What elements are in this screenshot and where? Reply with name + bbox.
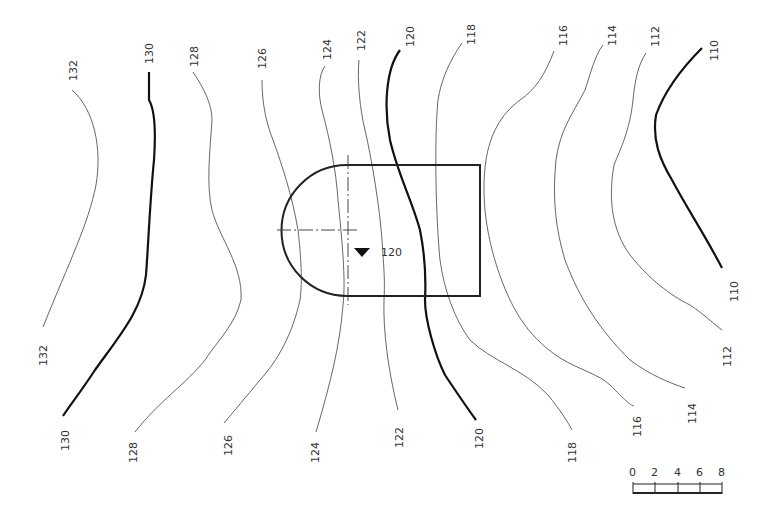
scale-label-2: 2	[651, 466, 658, 479]
label-112-top: 112	[649, 26, 662, 47]
scale-label-4: 4	[674, 466, 681, 479]
contour-site-plan: 120 132 130 128 126 124 122 120 118 116 …	[0, 0, 780, 532]
label-114-bottom: 114	[686, 403, 699, 424]
label-120-bottom: 120	[473, 428, 486, 449]
label-118-top: 118	[465, 24, 478, 45]
label-130-top: 130	[143, 43, 156, 64]
building-outline	[282, 165, 481, 296]
label-110-bottom: 110	[728, 281, 741, 302]
contour-110	[655, 48, 722, 268]
label-114-top: 114	[606, 25, 619, 46]
contour-124	[316, 66, 344, 432]
label-120-top: 120	[404, 26, 417, 47]
label-124-bottom: 124	[309, 442, 322, 463]
label-126-bottom: 126	[222, 435, 235, 456]
label-122-bottom: 122	[393, 427, 406, 448]
elevation-marker-icon	[354, 248, 370, 257]
contour-122	[358, 60, 398, 410]
floor-elevation-label: 120	[381, 246, 402, 259]
label-110-top: 110	[708, 40, 721, 61]
label-128-bottom: 128	[127, 442, 140, 463]
contour-lines	[43, 43, 722, 432]
scale-label-0: 0	[629, 466, 636, 479]
scale-label-6: 6	[696, 466, 703, 479]
contour-120	[387, 50, 476, 420]
contour-labels-bottom: 132 130 128 126 124 122 120 118 116 114 …	[37, 281, 741, 463]
scale-bar: 0 2 4 6 8	[629, 466, 725, 494]
label-116-bottom: 116	[631, 416, 644, 437]
label-132-top: 132	[67, 60, 80, 81]
contour-116	[484, 51, 634, 406]
contour-132	[43, 90, 98, 327]
label-126-top: 126	[256, 48, 269, 69]
label-132-bottom: 132	[37, 345, 50, 366]
scale-label-8: 8	[718, 466, 725, 479]
label-118-bottom: 118	[566, 442, 579, 463]
contour-128	[135, 72, 241, 432]
building-footprint: 120	[277, 155, 480, 305]
contour-126	[224, 80, 301, 423]
contour-labels-top: 132 130 128 126 124 122 120 118 116 114 …	[67, 24, 721, 81]
label-124-top: 124	[321, 39, 334, 60]
contour-118	[436, 43, 572, 430]
contour-130	[63, 72, 155, 416]
label-122-top: 122	[355, 30, 368, 51]
label-112-bottom: 112	[721, 346, 734, 367]
label-128-top: 128	[188, 46, 201, 67]
label-116-top: 116	[557, 25, 570, 46]
label-130-bottom: 130	[59, 430, 72, 451]
